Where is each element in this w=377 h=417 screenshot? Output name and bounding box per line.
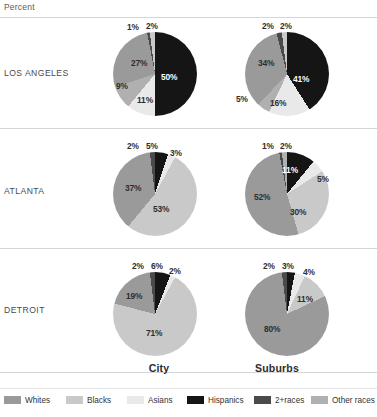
legend-item-2plus-races: 2+races [254,394,304,406]
slice-label-blacks: 2% [146,21,158,31]
pie-los-angeles-city: 50% 11% 9% 27% 1% 2% [113,32,205,124]
slice-label-hispanics: 6% [151,261,163,271]
divider-atlanta [0,248,377,249]
legend-item-blacks: Blacks [66,394,111,406]
pie-slices [113,272,197,356]
slice-label-whites: 37% [125,183,141,193]
divider-top [0,17,377,18]
pie-slices [245,32,329,116]
slice-label-asians: 2% [169,266,181,276]
legend-label-2plus-races: 2+races [275,396,304,405]
slice-label-2plus-races: 2% [262,21,274,31]
legend-item-other-races: Other races [311,394,375,406]
slice-label-whites: 34% [258,58,274,68]
slice-label-blacks: 53% [153,204,169,214]
slice-label-asians: 11% [137,95,153,105]
slice-label-asians: 3% [170,148,182,158]
slice-label-hispanics: 5% [146,141,158,151]
slice-label-whites: 80% [264,324,280,334]
slice-label-whites: 52% [254,192,270,202]
slice-label-blacks: 71% [146,328,162,338]
slice-label-asians: 16% [270,98,286,108]
pie-detroit-suburbs: 3% 4% 11% 80% 2% [245,272,337,364]
slice-label-2plus-races: 1% [262,141,274,151]
legend-swatch-other-races [311,396,328,404]
slice-label-hispanics: 50% [161,72,177,82]
legend-label-blacks: Blacks [87,396,111,405]
slice-label-blacks: 2% [280,21,292,31]
slice-label-hispanics: 41% [293,74,309,84]
slice-label-2plus-races: 2% [132,261,144,271]
slice-label-hispanics: 11% [282,165,298,175]
row-label-atlanta: ATLANTA [4,186,45,196]
legend-swatch-hispanics [187,396,204,404]
pie-slices [113,32,197,116]
legend-label-hispanics: Hispanics [208,396,244,405]
slice-label-whites: 19% [126,291,142,301]
legend-label-asians: Asians [148,396,173,405]
legend-item-hispanics: Hispanics [187,394,244,406]
slice-label-2plus-races: 2% [263,261,275,271]
slice-label-hispanics: 3% [282,261,294,271]
pie-atlanta-suburbs: 11% 5% 30% 52% 1% 2% [245,152,337,244]
slice-label-2plus-races: 1% [127,22,139,32]
slice-label-asians: 5% [317,174,329,184]
pie-detroit-city: 6% 2% 71% 19% 2% [113,272,205,364]
row-label-detroit: DETROIT [4,305,45,315]
slice-label-other-races: 9% [116,81,128,91]
legend-item-asians: Asians [127,394,173,406]
slice-label-other-races: 5% [236,94,248,104]
pie-los-angeles-suburbs: 41% 16% 5% 34% 2% 2% [245,32,337,124]
legend-item-whites: Whites [4,394,50,406]
pie-slices [113,152,197,236]
legend-label-other-races: Other races [332,396,375,405]
divider-los-angeles [0,128,377,129]
divider-legend [0,388,377,389]
row-label-los-angeles: LOS ANGELES [4,68,69,78]
slice-label-2plus-races: 2% [127,141,139,151]
legend-swatch-whites [4,396,21,404]
slice-label-blacks: 30% [290,207,306,217]
pie-atlanta-city: 5% 3% 53% 37% 2% [113,152,205,244]
legend-label-whites: Whites [25,396,50,405]
slice-label-other-races: 2% [280,141,292,151]
legend-swatch-2plus-races [254,396,271,404]
pie-chart-figure: Percent LOS ANGELES ATLANTA DETROIT City… [0,0,377,417]
legend-swatch-blacks [66,396,83,404]
pie-slices [245,272,329,356]
slice-label-asians: 4% [303,267,315,277]
unit-label: Percent [4,2,35,12]
slice-label-blacks: 11% [297,294,313,304]
legend-swatch-asians [127,396,144,404]
legend: Whites Blacks Asians Hispanics 2+races O… [0,394,377,408]
slice-label-whites: 27% [131,58,147,68]
